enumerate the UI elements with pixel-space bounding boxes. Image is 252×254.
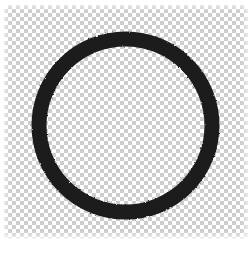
ring-graphic xyxy=(0,0,252,254)
caption-artifact xyxy=(0,241,252,254)
annulus-shape xyxy=(39,39,212,212)
image-canvas xyxy=(0,0,252,254)
